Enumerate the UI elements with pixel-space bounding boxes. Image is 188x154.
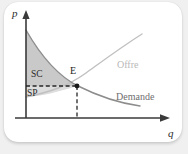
y-axis-label: p: [12, 8, 18, 19]
equilibrium-point-label: E: [70, 66, 76, 76]
x-axis-arrow-icon: [160, 114, 170, 121]
producer-surplus-label: SP: [27, 89, 38, 99]
y-axis-arrow-icon: [22, 10, 29, 19]
supply-curve-label: Offre: [117, 60, 138, 70]
figure-container: p q E SC SP Offre Demande: [0, 0, 188, 154]
supply-demand-chart: [0, 0, 188, 154]
equilibrium-point-marker: [75, 84, 80, 89]
consumer-surplus-label: SC: [31, 70, 43, 80]
x-axis-label: q: [168, 128, 174, 139]
demand-curve-label: Demande: [116, 92, 154, 102]
